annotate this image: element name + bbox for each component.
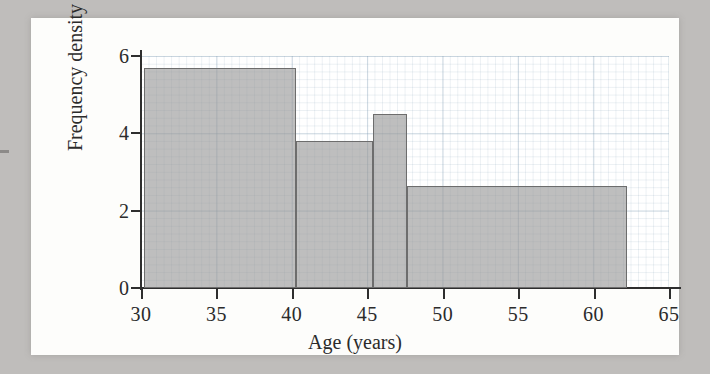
histogram-figure-card: 3035404550556065 0246 Age (years) Freque… — [31, 18, 679, 355]
page-edge-mark — [0, 150, 9, 153]
y-tick — [131, 55, 142, 57]
x-axis-title: Age (years) — [31, 331, 679, 354]
x-tick — [216, 288, 218, 299]
x-tick-label: 35 — [206, 303, 227, 326]
x-tick — [518, 288, 520, 299]
x-tick — [292, 288, 294, 299]
y-axis-title: Frequency density — [64, 0, 87, 194]
x-tick — [594, 288, 596, 299]
y-tick — [131, 210, 142, 212]
screenshot-root: 3035404550556065 0246 Age (years) Freque… — [0, 0, 710, 374]
y-tick-label: 4 — [109, 122, 129, 145]
x-tick-label: 30 — [131, 303, 152, 326]
histogram-bar — [296, 141, 373, 288]
x-tick-label: 65 — [659, 303, 680, 326]
y-tick — [131, 287, 142, 289]
x-tick — [443, 288, 445, 299]
x-tick-label: 45 — [357, 303, 378, 326]
histogram-bar — [407, 186, 627, 288]
histogram-bar — [373, 114, 406, 288]
x-tick-label: 60 — [583, 303, 604, 326]
x-tick-label: 55 — [508, 303, 529, 326]
plot-area — [141, 56, 669, 288]
y-tick-label: 2 — [109, 199, 129, 222]
x-tick-label: 40 — [281, 303, 302, 326]
y-axis-line — [140, 50, 142, 290]
y-tick-label: 6 — [109, 45, 129, 68]
x-tick — [141, 288, 143, 299]
x-tick-label: 50 — [432, 303, 453, 326]
y-tick-label: 0 — [109, 277, 129, 300]
x-tick — [367, 288, 369, 299]
histogram-bars — [141, 56, 669, 288]
histogram-bar — [144, 68, 296, 288]
y-tick — [131, 132, 142, 134]
x-tick — [669, 288, 671, 299]
